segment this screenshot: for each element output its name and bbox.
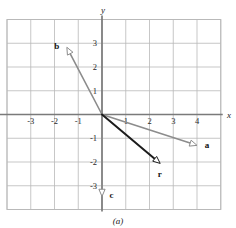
vector-arrowhead-b <box>67 47 73 55</box>
vector-label-c: c <box>110 190 114 200</box>
x-tick-label: 4 <box>195 116 200 126</box>
plot-canvas: -3-2-11234321-1-2-3 abcr x y (a) <box>0 0 236 228</box>
x-tick-label: -1 <box>75 116 82 126</box>
vector-diagram-figure: -3-2-11234321-1-2-3 abcr x y (a) <box>0 0 236 228</box>
x-tick-label: 3 <box>171 116 175 126</box>
axes-lines <box>0 16 223 212</box>
vector-label-a: a <box>205 140 210 150</box>
y-axis-label: y <box>100 5 105 15</box>
x-axis-label: x <box>226 110 231 120</box>
vector-shaft-b <box>69 52 102 114</box>
vectors-group <box>67 47 197 196</box>
x-tick-label: -3 <box>27 116 34 126</box>
y-tick-label: 2 <box>93 62 97 72</box>
y-tick-label: 3 <box>93 38 97 48</box>
y-tick-label: -2 <box>90 157 97 167</box>
y-tick-label: -3 <box>90 181 97 191</box>
x-tick-label: 2 <box>147 116 151 126</box>
y-tick-label: -1 <box>90 133 97 143</box>
y-tick-label: 1 <box>93 86 97 96</box>
vector-label-b: b <box>54 41 59 51</box>
x-tick-label: -2 <box>51 116 58 126</box>
figure-caption: (a) <box>113 216 124 226</box>
vector-arrowhead-a <box>189 140 197 146</box>
vector-label-r: r <box>158 169 162 179</box>
vector-arrowhead-c <box>99 189 105 196</box>
